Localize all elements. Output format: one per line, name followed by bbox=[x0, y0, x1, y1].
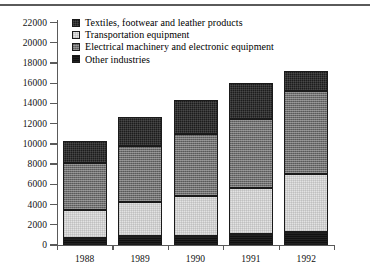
stacked-bar-chart: 0200040006000800010000120001400016000180… bbox=[0, 0, 370, 279]
x-tick-2 bbox=[168, 245, 169, 250]
y-tick-6000 bbox=[50, 184, 57, 185]
bar-segment-1989-textiles[interactable] bbox=[118, 117, 162, 146]
bar-segment-1992-textiles[interactable] bbox=[284, 71, 328, 91]
bar-segment-1988-electrical[interactable] bbox=[63, 163, 107, 210]
bar-1991[interactable] bbox=[229, 83, 273, 245]
x-tick-1 bbox=[112, 245, 113, 250]
bar-segment-1992-electrical[interactable] bbox=[284, 91, 328, 173]
y-tick-label-12000: 12000 bbox=[23, 119, 47, 129]
bar-segment-1988-transport[interactable] bbox=[63, 210, 107, 238]
x-axis-label-1989: 1989 bbox=[130, 254, 149, 264]
bar-1988[interactable] bbox=[63, 141, 107, 245]
bar-segment-1990-other[interactable] bbox=[174, 236, 218, 245]
legend-swatch-textiles-icon bbox=[72, 19, 80, 27]
bar-1990[interactable] bbox=[174, 100, 218, 245]
x-tick-5 bbox=[334, 245, 335, 250]
legend-item-transport[interactable]: Transportation equipment bbox=[72, 29, 274, 41]
bar-segment-1990-electrical[interactable] bbox=[174, 134, 218, 197]
bar-segment-1989-electrical[interactable] bbox=[118, 146, 162, 202]
bar-segment-1988-other[interactable] bbox=[63, 238, 107, 245]
y-tick-label-8000: 8000 bbox=[28, 159, 47, 169]
y-tick-8000 bbox=[50, 163, 57, 164]
bar-segment-1989-other[interactable] bbox=[118, 236, 162, 245]
bar-segment-1991-transport[interactable] bbox=[229, 188, 273, 234]
legend-swatch-electrical-icon bbox=[72, 43, 80, 51]
bar-segment-1992-transport[interactable] bbox=[284, 174, 328, 233]
y-tick-label-4000: 4000 bbox=[28, 200, 47, 210]
y-tick-label-6000: 6000 bbox=[28, 179, 47, 189]
y-tick-2000 bbox=[50, 224, 57, 225]
y-tick-18000 bbox=[50, 62, 57, 63]
bar-segment-1989-transport[interactable] bbox=[118, 202, 162, 236]
y-tick-label-0: 0 bbox=[42, 240, 47, 250]
bar-segment-1988-textiles[interactable] bbox=[63, 141, 107, 163]
legend-label-other: Other industries bbox=[85, 54, 150, 66]
legend-label-electrical: Electrical machinery and electronic equi… bbox=[85, 41, 274, 53]
y-tick-label-10000: 10000 bbox=[23, 139, 47, 149]
y-tick-label-22000: 22000 bbox=[23, 18, 47, 28]
y-tick-label-18000: 18000 bbox=[23, 58, 47, 68]
bar-1989[interactable] bbox=[118, 117, 162, 245]
y-tick-0 bbox=[50, 244, 57, 245]
legend-item-textiles[interactable]: Textiles, footwear and leather products bbox=[72, 17, 274, 29]
legend-swatch-transport-icon bbox=[72, 31, 80, 39]
legend-swatch-other-icon bbox=[72, 55, 80, 63]
x-axis-label-1991: 1991 bbox=[241, 254, 260, 264]
x-tick-0 bbox=[57, 245, 58, 250]
x-tick-4 bbox=[279, 245, 280, 250]
x-axis-label-1988: 1988 bbox=[75, 254, 94, 264]
y-tick-label-2000: 2000 bbox=[28, 220, 47, 230]
legend-label-transport: Transportation equipment bbox=[85, 29, 189, 41]
legend-item-other[interactable]: Other industries bbox=[72, 54, 274, 66]
y-tick-12000 bbox=[50, 123, 57, 124]
bar-segment-1991-electrical[interactable] bbox=[229, 119, 273, 188]
y-axis-line bbox=[57, 20, 58, 246]
y-tick-label-20000: 20000 bbox=[23, 38, 47, 48]
x-axis-label-1990: 1990 bbox=[186, 254, 205, 264]
x-axis-label-1992: 1992 bbox=[297, 254, 316, 264]
y-tick-10000 bbox=[50, 143, 57, 144]
bar-segment-1991-other[interactable] bbox=[229, 234, 273, 245]
x-axis-line bbox=[57, 245, 334, 246]
y-tick-22000 bbox=[50, 22, 57, 23]
legend-label-textiles: Textiles, footwear and leather products bbox=[85, 17, 243, 29]
bar-segment-1992-other[interactable] bbox=[284, 232, 328, 245]
chart-legend: Textiles, footwear and leather productsT… bbox=[72, 17, 274, 66]
bar-1992[interactable] bbox=[284, 71, 328, 245]
bar-segment-1991-textiles[interactable] bbox=[229, 83, 273, 119]
bar-segment-1990-transport[interactable] bbox=[174, 196, 218, 235]
bar-segment-1990-textiles[interactable] bbox=[174, 100, 218, 133]
y-tick-label-14000: 14000 bbox=[23, 98, 47, 108]
legend-item-electrical[interactable]: Electrical machinery and electronic equi… bbox=[72, 41, 274, 53]
x-tick-3 bbox=[223, 245, 224, 250]
y-tick-4000 bbox=[50, 204, 57, 205]
y-tick-14000 bbox=[50, 103, 57, 104]
y-tick-label-16000: 16000 bbox=[23, 78, 47, 88]
y-tick-16000 bbox=[50, 83, 57, 84]
y-tick-20000 bbox=[50, 42, 57, 43]
